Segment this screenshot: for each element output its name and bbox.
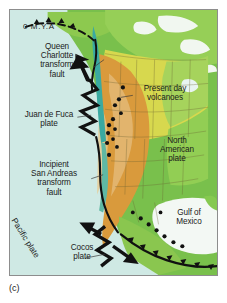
volcano-dot — [105, 141, 109, 145]
volcano-dot — [111, 137, 115, 141]
volcano-dot — [107, 153, 111, 157]
label-incipient-san-andreas-fault: Incipient San Andreas transform fault — [18, 160, 90, 197]
label-north-american-plate: North American plate — [146, 136, 208, 164]
volcano-dot — [180, 244, 184, 248]
figure-caption: (c) — [9, 283, 20, 293]
volcano-dot — [171, 240, 175, 244]
tectonic-map: Queen Charlotte transform fault Juan de … — [9, 9, 218, 276]
volcano-dot — [119, 111, 123, 115]
volcano-dot — [147, 222, 151, 226]
volcano-dot — [117, 97, 121, 101]
volcano-dot — [162, 234, 166, 238]
volcano-dot — [139, 216, 143, 220]
volcano-dot — [107, 123, 111, 127]
label-present-day-volcanoes: Present day volcanoes — [124, 84, 206, 102]
volcano-dot — [106, 131, 110, 135]
volcano-dot — [113, 103, 117, 107]
volcano-dot — [155, 228, 159, 232]
label-juan-de-fuca-plate: Juan de Fuca plate — [13, 110, 85, 128]
volcano-dot — [115, 145, 119, 149]
volcano-dot — [111, 117, 115, 121]
label-gulf-of-mexico: Gulf of Mexico — [162, 208, 216, 226]
figure-panel: Queen Charlotte transform fault Juan de … — [0, 0, 227, 303]
label-queen-charlotte-fault: Queen Charlotte transform fault — [25, 42, 89, 79]
volcano-dot — [113, 127, 117, 131]
label-cocos-plate: Cocos plate — [58, 243, 106, 261]
volcano-dot — [131, 211, 135, 215]
label-age: 0 M.Y.A — [23, 22, 55, 31]
